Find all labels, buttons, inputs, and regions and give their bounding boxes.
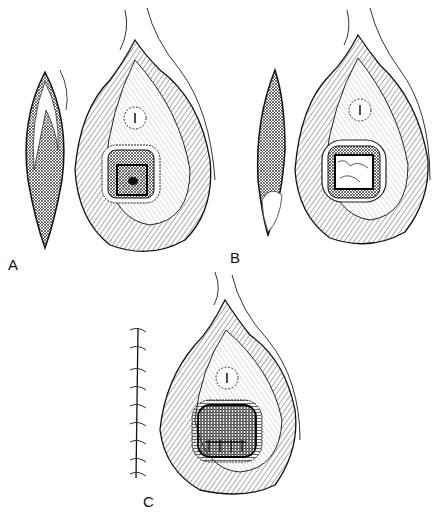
- panel-label-b: B: [230, 249, 240, 266]
- panel-a: [26, 8, 215, 251]
- panel-label-a: A: [8, 256, 18, 273]
- panel-b: [258, 8, 430, 244]
- panel-label-c: C: [143, 493, 154, 510]
- panel-c: [130, 272, 300, 494]
- illustration: A B: [0, 0, 447, 517]
